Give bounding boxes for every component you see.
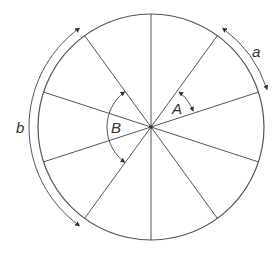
spoke-line <box>151 127 258 162</box>
arc-b-arrow <box>29 28 79 225</box>
angle-a-label: A <box>171 100 182 117</box>
spoke-line <box>85 127 151 218</box>
sector-diagram: a b A B <box>0 0 279 256</box>
spoke-line <box>151 92 258 127</box>
spoke-line <box>44 127 151 162</box>
angle-b-label: B <box>111 119 121 136</box>
spoke-line <box>151 36 217 127</box>
spoke-line <box>151 127 217 218</box>
spoke-line <box>85 36 151 127</box>
arc-a-label: a <box>252 43 260 60</box>
arc-a-arrow <box>223 28 267 89</box>
center-point <box>149 125 153 129</box>
spoke-line <box>44 92 151 127</box>
arc-b-label: b <box>16 119 24 136</box>
